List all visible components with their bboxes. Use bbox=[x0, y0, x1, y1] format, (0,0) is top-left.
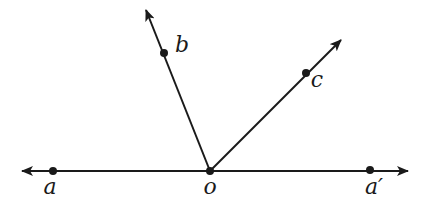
point-b bbox=[160, 49, 168, 57]
label-c: c bbox=[311, 67, 323, 92]
label-a: a bbox=[43, 174, 56, 199]
point-a_prime bbox=[366, 166, 374, 174]
angle-diagram: aoa′bc bbox=[0, 0, 425, 216]
label-o: o bbox=[203, 174, 216, 199]
label-a_prime: a′ bbox=[365, 174, 383, 199]
label-b: b bbox=[175, 32, 189, 57]
ray-oc bbox=[210, 40, 341, 171]
point-c bbox=[302, 69, 310, 77]
